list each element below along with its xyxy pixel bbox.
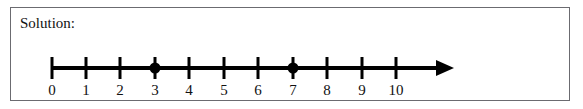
tick-label: 9	[358, 83, 366, 98]
screenshot-root: Solution:	[0, 0, 583, 109]
tick-label: 3	[151, 83, 159, 98]
solution-point-filled	[288, 63, 299, 74]
solution-point-filled	[150, 63, 161, 74]
tick-label: 6	[254, 83, 262, 98]
solution-panel: Solution:	[10, 7, 570, 101]
number-line-figure: 0 1 2 3 4 5 6 7 8 9 10	[11, 41, 569, 99]
tick-label: 8	[323, 83, 331, 98]
tick-label: 1	[82, 83, 90, 98]
tick-label: 0	[48, 83, 56, 98]
tick-label: 5	[220, 83, 228, 98]
page-title: Solution:	[20, 14, 75, 32]
tick-label: 2	[116, 83, 124, 98]
arrow-head-right-icon	[436, 60, 454, 76]
tick-label: 4	[185, 83, 193, 98]
tick-label: 10	[389, 83, 404, 98]
tick-label: 7	[289, 83, 297, 98]
